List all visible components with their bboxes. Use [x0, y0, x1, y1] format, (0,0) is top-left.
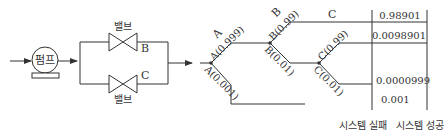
valve-c: 밸브 C — [109, 69, 149, 105]
column-label-success: 시스템 성공 — [396, 120, 444, 131]
valve-top-id: B — [141, 42, 149, 55]
diagram-canvas: 펌프 밸브 B 밸브 C — [0, 0, 446, 140]
header-c: C — [328, 8, 336, 21]
column-label-failure: 시스템 실패 — [339, 120, 387, 131]
valve-icon — [109, 33, 137, 51]
valve-bottom-id: C — [141, 69, 149, 82]
outcome-4: 0.001 — [381, 94, 410, 105]
valve-top-label: 밸브 — [114, 21, 132, 32]
pump-base — [32, 73, 59, 78]
outcome-1: 0.98901 — [379, 10, 420, 21]
event-tree: A B C A(0.999) A(0.001) B(0.99) B(0.01) … — [200, 5, 444, 131]
valve-bottom-label: 밸브 — [114, 94, 132, 105]
pump-label: 펌프 — [35, 54, 55, 67]
label-c-success: C(0.99) — [316, 28, 351, 63]
header-b: B — [269, 5, 284, 20]
label-c-failure: C(0.01) — [312, 64, 347, 99]
label-a-failure: A(0.001) — [202, 63, 241, 102]
valve-icon — [109, 75, 137, 93]
system-diagram: 펌프 밸브 B 밸브 C — [10, 21, 192, 105]
outcome-3: 0.0000999 — [376, 75, 430, 86]
pump: 펌프 — [32, 47, 59, 78]
label-b-failure: B(0.01) — [263, 44, 297, 78]
outcome-2: 0.0098901 — [372, 30, 426, 41]
valve-b: 밸브 B — [109, 21, 149, 55]
